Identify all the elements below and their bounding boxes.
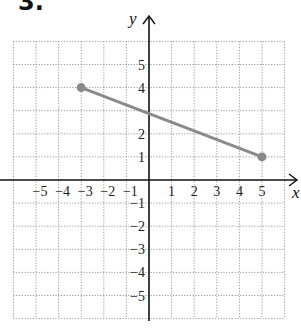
y-tick-label: 1 [138,150,145,165]
endpoint-dot [77,83,86,92]
y-tick-label: −3 [130,242,145,257]
endpoint-dot [258,152,267,161]
x-axis-label: x [291,183,300,202]
axes: xy [0,9,300,321]
y-tick-label: 2 [138,127,145,142]
x-tick-label: 4 [236,184,243,199]
x-tick-label: 5 [259,184,266,199]
x-tick-label: −5 [33,184,48,199]
x-tick-label: −4 [55,184,70,199]
x-tick-label: −2 [100,184,115,199]
y-tick-label: −4 [130,265,145,280]
y-tick-label: 4 [138,81,145,96]
x-tick-label: −3 [78,184,93,199]
y-tick-label: −1 [130,196,145,211]
x-tick-label: 2 [191,184,198,199]
x-tick-label: 3 [213,184,220,199]
x-tick-label: 1 [168,184,175,199]
y-axis-label: y [127,9,137,28]
y-tick-label: −2 [130,219,145,234]
y-tick-label: −5 [130,289,145,304]
y-tick-label: 5 [138,58,145,73]
coordinate-plane-chart: xy −5−4−3−2−1123455421−1−2−3−4−5 [0,0,301,329]
